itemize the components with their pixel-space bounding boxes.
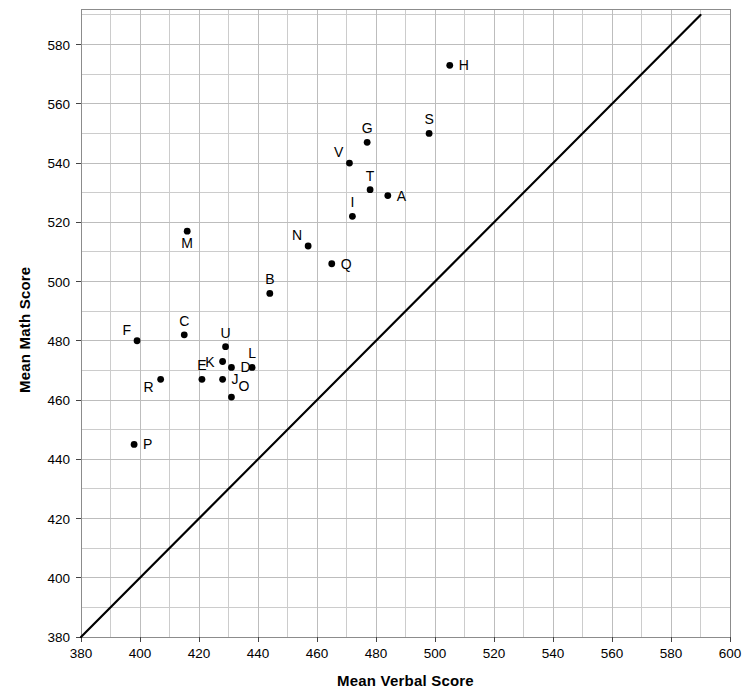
x-tick-label: 500 bbox=[424, 646, 447, 661]
data-point bbox=[219, 358, 226, 365]
data-point bbox=[228, 364, 235, 371]
data-point bbox=[199, 376, 206, 383]
data-point-label: U bbox=[220, 325, 230, 341]
x-tick-label: 440 bbox=[247, 646, 270, 661]
data-point bbox=[134, 337, 141, 344]
y-tick-label: 580 bbox=[47, 38, 70, 53]
x-tick-label: 540 bbox=[542, 646, 565, 661]
data-point-label: D bbox=[240, 359, 250, 375]
y-tick-label: 380 bbox=[47, 630, 70, 645]
data-point bbox=[349, 213, 356, 220]
x-tick-label: 460 bbox=[306, 646, 329, 661]
data-point bbox=[446, 62, 453, 69]
x-tick-label: 580 bbox=[660, 646, 683, 661]
y-tick-label: 540 bbox=[47, 156, 70, 171]
x-tick-label: 400 bbox=[129, 646, 152, 661]
data-point-label: O bbox=[238, 378, 249, 394]
data-point bbox=[184, 228, 191, 235]
data-point bbox=[222, 343, 229, 350]
data-point-label: B bbox=[265, 271, 274, 287]
data-point-label: I bbox=[350, 194, 354, 210]
data-point-label: G bbox=[362, 120, 373, 136]
data-point bbox=[131, 441, 138, 448]
data-point bbox=[157, 376, 164, 383]
x-tick-label: 600 bbox=[719, 646, 742, 661]
data-point bbox=[384, 192, 391, 199]
y-tick-label: 420 bbox=[47, 512, 70, 527]
x-tick-label: 380 bbox=[70, 646, 93, 661]
data-point-label: F bbox=[122, 322, 131, 338]
data-point-label: R bbox=[144, 379, 154, 395]
y-tick-label: 460 bbox=[47, 393, 70, 408]
y-tick-label: 560 bbox=[47, 97, 70, 112]
x-tick-label: 560 bbox=[601, 646, 624, 661]
data-point-label: V bbox=[334, 144, 344, 160]
data-point bbox=[367, 186, 374, 193]
x-tick-label: 480 bbox=[365, 646, 388, 661]
data-point-label: H bbox=[459, 57, 469, 73]
point-labels: ABCDEFGHIJKLMNOPQRSTUV bbox=[122, 57, 468, 452]
data-point-label: A bbox=[397, 188, 407, 204]
data-point bbox=[426, 130, 433, 137]
x-tick-label: 420 bbox=[188, 646, 211, 661]
data-point bbox=[228, 394, 235, 401]
data-point bbox=[181, 331, 188, 338]
data-point bbox=[266, 290, 273, 297]
plot-canvas: 3804004204404604805005205405605806003804… bbox=[0, 0, 749, 698]
scatter-chart: 3804004204404604805005205405605806003804… bbox=[0, 0, 749, 698]
data-point bbox=[346, 160, 353, 167]
x-axis-title: Mean Verbal Score bbox=[81, 672, 730, 689]
reference-line bbox=[81, 15, 701, 637]
y-tick-label: 480 bbox=[47, 334, 70, 349]
data-point-label: Q bbox=[341, 256, 352, 272]
data-point bbox=[219, 376, 226, 383]
y-tick-label: 440 bbox=[47, 452, 70, 467]
axis-ticks bbox=[76, 45, 730, 642]
data-point-label: S bbox=[424, 111, 433, 127]
data-point-label: C bbox=[179, 313, 189, 329]
y-tick-label: 500 bbox=[47, 275, 70, 290]
data-point-label: K bbox=[205, 354, 215, 370]
x-tick-label: 520 bbox=[483, 646, 506, 661]
data-point bbox=[305, 243, 312, 250]
data-points bbox=[131, 62, 453, 448]
y-axis-title: Mean Math Score bbox=[16, 267, 33, 393]
data-point-label: N bbox=[292, 227, 302, 243]
data-point bbox=[328, 260, 335, 267]
data-point-label: L bbox=[248, 345, 256, 361]
data-point-label: P bbox=[143, 436, 152, 452]
y-tick-label: 520 bbox=[47, 215, 70, 230]
y-tick-label: 400 bbox=[47, 571, 70, 586]
data-point-label: T bbox=[366, 168, 375, 184]
data-point-label: M bbox=[181, 235, 193, 251]
data-point bbox=[364, 139, 371, 146]
